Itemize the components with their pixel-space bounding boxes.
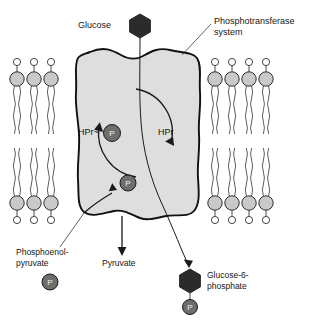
- lipid-head: [259, 196, 273, 210]
- lipid-tail: [19, 148, 21, 196]
- lipid-molecule: [259, 148, 273, 224]
- pep-phosphate-group: P: [42, 274, 58, 290]
- lipid-tip-circle: [13, 216, 20, 223]
- lipid-tail: [30, 86, 32, 134]
- lipid-tail: [19, 86, 21, 134]
- phosphate-glyph: P: [187, 303, 192, 312]
- phosphate-glyph: P: [125, 179, 130, 188]
- lipid-tail: [234, 86, 236, 134]
- lipid-molecule: [27, 58, 41, 134]
- lipid-head: [10, 196, 24, 210]
- lipid-molecule: [259, 58, 273, 134]
- lipid-head: [225, 72, 239, 86]
- phosphoenol-label: Phosphoenol-: [16, 247, 69, 257]
- glucose6-label: Glucose-6-: [207, 270, 249, 280]
- lipid-tail: [30, 148, 32, 196]
- lipid-tip-circle: [47, 216, 54, 223]
- lipid-head: [10, 72, 24, 86]
- pyruvate-suffix-label: pyruvate: [16, 258, 49, 268]
- lipid-head: [242, 196, 256, 210]
- lipid-tail: [228, 86, 230, 134]
- lipid-tip-circle: [245, 216, 252, 223]
- lipid-head: [27, 72, 41, 86]
- lower-right-leaflet: [208, 148, 273, 224]
- lipid-tip-circle: [211, 216, 218, 223]
- lipid-head: [242, 72, 256, 86]
- lipid-tip-circle: [47, 58, 54, 65]
- lipid-head: [44, 72, 58, 86]
- phosphotransferase-diagram-canvas: HPr~ P HPr P Glucose Phosphotransferase …: [0, 0, 318, 331]
- phosphotransferase-leader-line: [182, 24, 211, 55]
- upper-left-leaflet: [10, 58, 58, 134]
- lipid-tail: [262, 86, 264, 134]
- phosphotransferase-system-label: Phosphotransferase: [214, 16, 295, 26]
- pep-leader-line: [60, 213, 84, 247]
- lipid-tail: [251, 86, 253, 134]
- glucose6phosphate-hexagon-icon: [180, 269, 201, 293]
- lipid-molecule: [10, 148, 24, 224]
- lipid-tip-circle: [262, 58, 269, 65]
- lipid-head: [225, 196, 239, 210]
- lipid-tip-circle: [211, 58, 218, 65]
- lipid-molecule: [208, 58, 222, 134]
- lipid-tip-circle: [30, 58, 37, 65]
- lipid-tip-circle: [262, 216, 269, 223]
- lipid-tip-circle: [13, 58, 20, 65]
- lipid-tail: [245, 148, 247, 196]
- lipid-tail: [234, 148, 236, 196]
- lipid-tail: [268, 86, 270, 134]
- lipid-molecule: [208, 148, 222, 224]
- lipid-molecule: [225, 148, 239, 224]
- glucose-hexagon-icon: [130, 14, 151, 38]
- diagram-figure: HPr~ P HPr P Glucose Phosphotransferase …: [0, 0, 318, 331]
- lipid-head: [27, 196, 41, 210]
- glucose-6-phosphate-molecule: P: [180, 269, 201, 315]
- transfer-phosphate-group: P: [120, 175, 136, 191]
- lipid-tail: [53, 148, 55, 196]
- phosphate-suffix-label: phosphate: [207, 281, 247, 291]
- pyruvate-label: Pyruvate: [102, 258, 136, 268]
- hpr-phospho-label: HPr~: [78, 127, 99, 137]
- pyruvate-arrowhead: [118, 247, 127, 256]
- lipid-head: [259, 72, 273, 86]
- lipid-tail: [36, 86, 38, 134]
- lipid-molecule: [27, 148, 41, 224]
- hpr-label: HPr: [158, 127, 174, 137]
- lipid-tail: [251, 148, 253, 196]
- lipid-tail: [13, 86, 15, 134]
- lipid-tail: [47, 148, 49, 196]
- glucose-molecule: [130, 14, 151, 38]
- lipid-tail: [245, 86, 247, 134]
- lipid-molecule: [242, 58, 256, 134]
- lower-left-leaflet: [10, 148, 58, 224]
- lipid-tail: [268, 148, 270, 196]
- lipid-head: [44, 196, 58, 210]
- lipid-tail: [217, 86, 219, 134]
- lipid-tail: [47, 86, 49, 134]
- lipid-tail: [36, 148, 38, 196]
- lipid-tail: [217, 148, 219, 196]
- phosphate-glyph: P: [47, 278, 52, 287]
- lipid-tail: [211, 148, 213, 196]
- lipid-tip-circle: [30, 216, 37, 223]
- lipid-molecule: [225, 58, 239, 134]
- upper-right-leaflet: [208, 58, 273, 134]
- lipid-molecule: [44, 58, 58, 134]
- lipid-tail: [228, 148, 230, 196]
- lipid-tip-circle: [245, 58, 252, 65]
- lipid-tip-circle: [228, 58, 235, 65]
- lipid-tail: [262, 148, 264, 196]
- lipid-molecule: [242, 148, 256, 224]
- lipid-head: [208, 196, 222, 210]
- lipid-tail: [53, 86, 55, 134]
- lipid-tip-circle: [228, 216, 235, 223]
- glucose-label: Glucose: [78, 20, 111, 30]
- lipid-molecule: [44, 148, 58, 224]
- lipid-tail: [13, 148, 15, 196]
- lipid-head: [208, 72, 222, 86]
- glucose-uptake-arrowhead: [184, 259, 193, 268]
- lipid-tail: [211, 86, 213, 134]
- phosphate-glyph: P: [109, 129, 114, 138]
- phosphotransferase-system-label-line2: system: [214, 27, 243, 37]
- lipid-molecule: [10, 58, 24, 134]
